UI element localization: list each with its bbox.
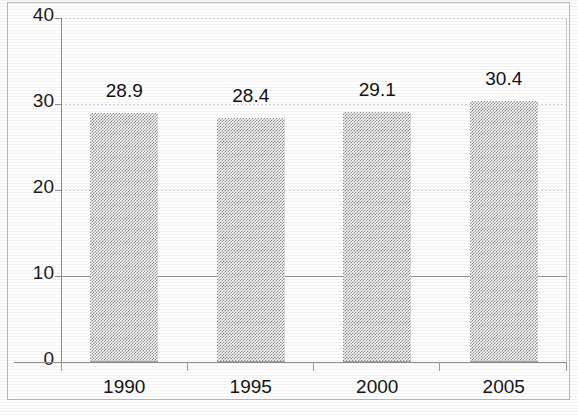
bar-value-label-1995: 28.4 (206, 85, 296, 107)
x-category-label-2000: 2000 (327, 376, 427, 398)
y-tick-label-40: 40 (0, 4, 54, 26)
bar-2000[interactable] (343, 112, 411, 362)
y-tick-mark-10 (55, 276, 62, 277)
y-tick-label-20: 20 (0, 176, 54, 198)
x-axis-categories: 1990 1995 2000 2005 (61, 362, 567, 400)
x-tick-mark-3 (439, 362, 440, 371)
y-tick-mark-40 (55, 18, 62, 19)
x-category-label-1995: 1995 (201, 376, 301, 398)
y-tick-mark-20 (55, 190, 62, 191)
x-axis-bottom-rule (14, 399, 567, 400)
bar-value-label-1990: 28.9 (79, 80, 169, 102)
bar-value-label-2005: 30.4 (459, 68, 549, 90)
x-tick-mark-0 (61, 362, 62, 371)
bar-2005[interactable] (470, 101, 538, 362)
plot-area: 28.9 28.4 29.1 30.4 (61, 18, 567, 362)
x-tick-mark-1 (187, 362, 188, 371)
y-axis-labels: 40 30 20 10 0 (0, 0, 54, 415)
x-category-label-2005: 2005 (454, 376, 554, 398)
y-tick-label-0: 0 (0, 348, 54, 370)
y-tick-mark-30 (55, 104, 62, 105)
x-category-label-1990: 1990 (74, 376, 174, 398)
x-tick-mark-2 (313, 362, 314, 371)
bar-value-label-2000: 29.1 (332, 79, 422, 101)
bar-1995[interactable] (217, 118, 285, 362)
gridline-40 (61, 18, 567, 19)
x-tick-mark-4 (566, 362, 567, 371)
y-tick-label-10: 10 (0, 262, 54, 284)
bar-1990[interactable] (90, 113, 158, 362)
y-tick-label-30: 30 (0, 90, 54, 112)
figure: 40 30 20 10 0 28.9 28.4 29.1 30.4 (0, 0, 578, 415)
